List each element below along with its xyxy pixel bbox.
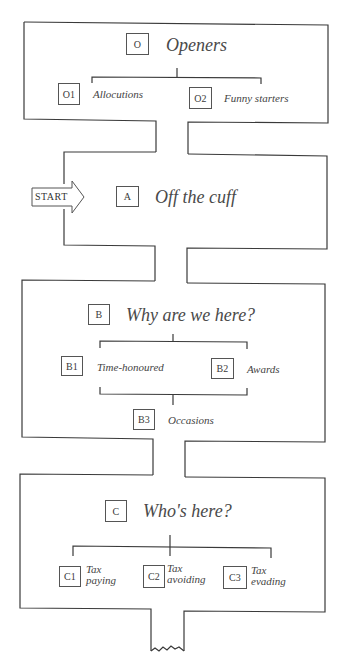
label-awards: Awards bbox=[247, 364, 280, 375]
label-tax-evading-line2: evading bbox=[251, 576, 286, 587]
code-box-o2: O2 bbox=[189, 87, 212, 109]
section-title-why-are-we-here: Why are we here? bbox=[126, 306, 255, 324]
speech-structure-diagram: START O Openers O1 Allocutions O2 Funny … bbox=[0, 0, 347, 670]
code-box-c3: C3 bbox=[223, 566, 247, 589]
code-box-b1: B1 bbox=[61, 356, 83, 376]
code-box-c: C bbox=[105, 500, 127, 522]
code-box-b: B bbox=[88, 304, 110, 325]
section-title-off-the-cuff: Off the cuff bbox=[155, 188, 236, 206]
section-title-whos-here: Who's here? bbox=[143, 502, 232, 520]
label-tax-evading: Tax evading bbox=[251, 565, 286, 587]
label-tax-paying: Tax paying bbox=[86, 564, 116, 586]
section-a-outline bbox=[64, 152, 156, 184]
code-box-b2: B2 bbox=[211, 358, 234, 379]
code-box-o1: O1 bbox=[58, 83, 80, 105]
section-title-openers: Openers bbox=[166, 36, 227, 54]
label-allocutions: Allocutions bbox=[93, 89, 143, 100]
code-box-o: O bbox=[126, 33, 149, 55]
code-box-a: A bbox=[116, 186, 139, 207]
torn-end bbox=[151, 646, 184, 651]
code-box-c2: C2 bbox=[143, 565, 165, 588]
code-box-b3: B3 bbox=[133, 409, 155, 430]
start-label: START bbox=[35, 192, 68, 202]
code-box-c1: C1 bbox=[59, 566, 81, 587]
label-tax-paying-line2: paying bbox=[86, 575, 116, 586]
label-funny-starters: Funny starters bbox=[224, 93, 288, 104]
label-time-honoured: Time-honoured bbox=[97, 362, 164, 373]
label-tax-avoiding-line2: avoiding bbox=[167, 574, 206, 585]
label-tax-avoiding: Tax avoiding bbox=[167, 563, 206, 585]
label-occasions: Occasions bbox=[168, 415, 214, 426]
